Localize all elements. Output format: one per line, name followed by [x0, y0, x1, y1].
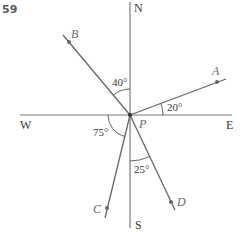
point-a-label: A — [211, 64, 220, 78]
east-label: E — [226, 118, 233, 132]
point-b-label: B — [71, 27, 79, 41]
question-number: 59 — [2, 3, 17, 16]
angle-label-c: 75° — [93, 126, 108, 138]
angle-label-d: 25° — [134, 163, 149, 175]
center-point — [128, 113, 132, 117]
arc-d — [130, 157, 149, 161]
arc-c — [108, 115, 125, 136]
arc-a — [161, 104, 163, 115]
bearings-diagram: 59 N S E W A B C D P 40° 20° 75° 25° — [0, 0, 244, 234]
west-label: W — [20, 118, 32, 132]
center-label: P — [138, 117, 147, 131]
angle-label-b: 40° — [112, 76, 127, 88]
angle-label-a: 20° — [167, 101, 182, 113]
point-c-label: C — [93, 202, 102, 216]
north-label: N — [134, 1, 143, 15]
point-c-dot — [105, 206, 109, 210]
ray-c — [105, 115, 130, 218]
point-a-dot — [215, 80, 219, 84]
point-d-label: D — [176, 195, 186, 209]
point-d-dot — [169, 200, 173, 204]
ray-b — [63, 35, 130, 115]
arc-b — [113, 89, 130, 95]
south-label: S — [135, 218, 142, 232]
